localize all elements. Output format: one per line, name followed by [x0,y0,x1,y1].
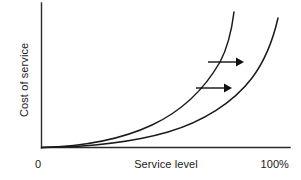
chart-canvas: Cost of service 0 Service level 100% [0,0,301,180]
x-axis-max-tick-label: 100% [260,158,289,170]
upper-shift-arrow [208,58,244,67]
y-axis-label: Cost of service [18,43,30,117]
curve-original-cost [42,12,234,148]
origin-tick-label: 0 [35,158,41,170]
chart-figure: Cost of service 0 Service level 100% [0,0,301,180]
curve-shifted-cost [42,18,278,148]
lower-shift-arrow [196,84,232,93]
x-axis-label: Service level [134,158,198,170]
